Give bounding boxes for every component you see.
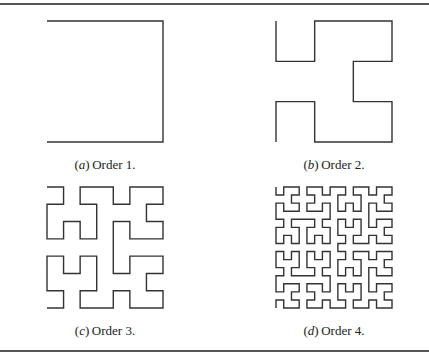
caption-label: a xyxy=(79,157,86,172)
caption-d: (d) Order 4. xyxy=(234,323,429,339)
caption-label: b xyxy=(308,157,315,172)
caption-text: Order 2. xyxy=(321,157,364,172)
caption-label: d xyxy=(308,323,315,338)
caption-b: (b) Order 2. xyxy=(234,157,429,173)
hilbert-curve-order-1 xyxy=(47,21,163,142)
hilbert-curve-order-4 xyxy=(276,187,392,308)
caption-text: Order 3. xyxy=(92,323,135,338)
hilbert-curve-order-3 xyxy=(47,187,163,308)
top-rule xyxy=(0,3,429,5)
hilbert-path xyxy=(47,187,163,308)
hilbert-curve-order-2 xyxy=(276,21,392,142)
caption-text: Order 1. xyxy=(92,157,135,172)
caption-a: (a) Order 1. xyxy=(5,157,205,173)
hilbert-path xyxy=(276,21,392,142)
hilbert-path xyxy=(276,187,392,308)
bottom-rule xyxy=(0,350,429,352)
caption-label: c xyxy=(79,323,85,338)
caption-c: (c) Order 3. xyxy=(5,323,205,339)
caption-text: Order 4. xyxy=(321,323,364,338)
hilbert-path xyxy=(47,21,163,142)
